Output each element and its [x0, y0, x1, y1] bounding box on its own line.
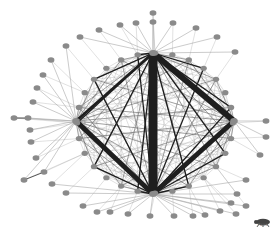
edge	[83, 194, 153, 206]
edge	[204, 178, 231, 203]
edge	[153, 28, 196, 53]
edge	[216, 167, 246, 180]
edge	[83, 178, 106, 206]
edge	[204, 178, 220, 211]
node	[243, 177, 250, 182]
node	[134, 52, 140, 57]
node	[222, 151, 228, 156]
edge	[80, 37, 153, 53]
edge	[216, 167, 237, 194]
node	[76, 136, 82, 141]
edge	[231, 137, 266, 139]
edge	[153, 194, 174, 216]
node	[263, 134, 270, 139]
pajek-logo: Pajek	[252, 212, 274, 228]
node	[214, 34, 221, 39]
node	[232, 49, 239, 54]
node	[213, 164, 219, 169]
node	[217, 208, 224, 213]
node	[41, 169, 48, 174]
edge	[66, 46, 76, 121]
node	[193, 25, 200, 30]
node	[107, 209, 114, 214]
node	[147, 213, 154, 218]
node	[40, 72, 47, 77]
node	[133, 20, 140, 25]
node	[91, 164, 97, 169]
node	[257, 152, 264, 157]
node	[25, 115, 32, 120]
edge	[52, 153, 85, 184]
edge	[234, 121, 266, 137]
edge	[51, 60, 85, 93]
node	[263, 118, 270, 123]
node	[170, 20, 177, 25]
node	[72, 118, 80, 124]
node	[63, 190, 70, 195]
node	[76, 105, 82, 110]
node	[150, 19, 157, 24]
node	[230, 118, 238, 124]
node	[233, 211, 240, 216]
edge	[99, 30, 153, 53]
node	[103, 66, 109, 71]
node	[91, 77, 97, 82]
edge	[66, 193, 153, 194]
node	[77, 34, 84, 39]
node	[190, 213, 197, 218]
edge	[36, 139, 79, 158]
node	[63, 43, 70, 48]
node	[49, 181, 56, 186]
network-graph	[0, 0, 279, 232]
logo-text: Pajek	[252, 222, 274, 227]
edge	[128, 191, 138, 214]
edge	[94, 167, 153, 194]
edge	[66, 167, 94, 193]
node	[27, 127, 34, 132]
node	[149, 191, 157, 197]
node	[150, 10, 157, 15]
node	[28, 139, 35, 144]
node	[34, 85, 41, 90]
edge	[136, 23, 153, 53]
node	[200, 175, 206, 180]
node	[222, 90, 228, 95]
edge	[216, 52, 235, 79]
node	[149, 50, 157, 56]
edge	[189, 186, 193, 216]
edge	[231, 139, 260, 155]
edge	[172, 191, 174, 216]
edge	[153, 37, 217, 53]
node	[21, 177, 28, 182]
node	[11, 115, 18, 120]
node	[186, 184, 192, 189]
node	[234, 191, 241, 196]
node	[134, 189, 140, 194]
node	[243, 203, 250, 208]
node	[117, 22, 124, 27]
edge	[66, 46, 94, 79]
edge	[37, 88, 76, 121]
edge	[153, 121, 234, 194]
node	[202, 212, 209, 217]
node	[171, 213, 178, 218]
node	[33, 155, 40, 160]
node	[94, 209, 101, 214]
node	[200, 66, 206, 71]
node	[169, 52, 175, 57]
node	[228, 200, 235, 205]
node	[96, 27, 103, 32]
node	[30, 99, 37, 104]
node	[103, 175, 109, 180]
node	[80, 203, 87, 208]
node	[82, 90, 88, 95]
node	[82, 151, 88, 156]
edge	[172, 23, 173, 55]
edge	[128, 194, 153, 214]
edge	[33, 102, 79, 107]
node	[213, 77, 219, 82]
edge	[153, 52, 235, 53]
node	[186, 57, 192, 62]
edge	[94, 53, 153, 79]
edge	[233, 121, 266, 123]
